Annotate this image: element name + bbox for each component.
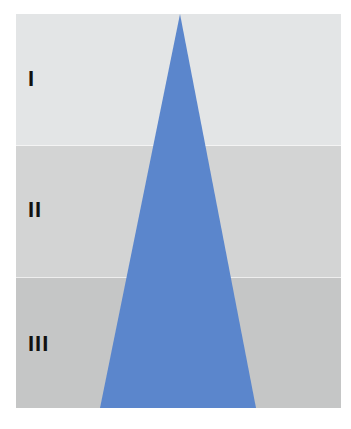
band-label-ii: II [28,199,42,221]
band-label-iii: III [28,333,49,355]
tier-diagram: I II III [16,14,341,408]
triangle-shape [16,14,341,408]
band-label-i: I [28,68,35,90]
